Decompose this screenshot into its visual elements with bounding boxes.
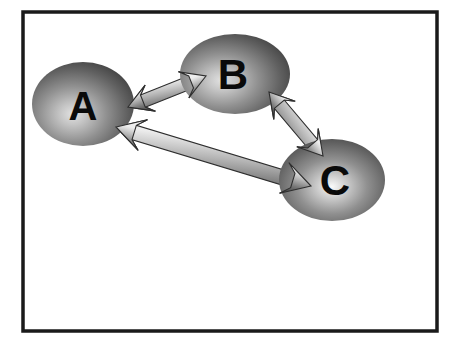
node-a[interactable]: A (32, 62, 134, 146)
node-label-a: A (69, 84, 98, 128)
diagram-canvas: ABC (0, 0, 451, 347)
node-label-b: B (218, 51, 248, 98)
node-label-c: C (320, 157, 350, 204)
diagram-svg: ABC (0, 0, 451, 347)
